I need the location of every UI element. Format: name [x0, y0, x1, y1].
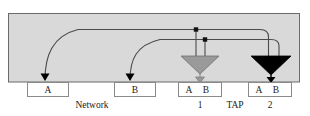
network-port-b-label: B	[132, 85, 138, 95]
junction-dot-trace-a	[194, 27, 198, 31]
network-caption: Network	[75, 100, 108, 110]
tap-2-number-label: 2	[268, 100, 273, 110]
network-tap-diagram: A B A B A B Network 1 TAP 2	[0, 0, 310, 116]
tap-2-port-a-label: A	[256, 85, 263, 95]
tap-2-port-b-label: B	[273, 85, 279, 95]
network-port-a-label: A	[45, 85, 52, 95]
tap-1-port-a-label: A	[186, 85, 193, 95]
tap-caption: TAP	[226, 100, 243, 110]
tap-1-number-label: 1	[198, 100, 203, 110]
tap-1-port-b-label: B	[203, 85, 209, 95]
junction-dot-trace-b	[203, 37, 207, 41]
diagram-canvas: A B A B A B Network 1 TAP 2	[0, 0, 310, 116]
